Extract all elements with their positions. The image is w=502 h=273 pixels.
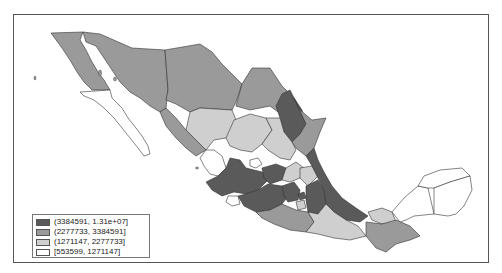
state-campeche: [392, 186, 434, 222]
legend-item: [553599, 1271147]: [36, 247, 146, 257]
legend-item: (3384591, 1.31e+07]: [36, 217, 146, 227]
legend-swatch: [36, 239, 50, 246]
state-chihuahua: [165, 44, 242, 112]
legend-label: (2277733, 3384591]: [54, 227, 126, 237]
legend-swatch: [36, 249, 50, 256]
state-colima: [226, 196, 240, 206]
legend-swatch: [36, 219, 50, 226]
state-morelos: [296, 200, 306, 210]
state-aguascalientes: [250, 158, 262, 168]
legend-item: (1271147, 2277733]: [36, 237, 146, 247]
map-legend: (3384591, 1.31e+07] (2277733, 3384591] (…: [32, 214, 150, 258]
legend-label: [553599, 1271147]: [54, 247, 120, 257]
state-chiapas: [366, 220, 420, 252]
island: [34, 76, 36, 80]
state-baja-california-sur: [80, 90, 150, 156]
legend-swatch: [36, 229, 50, 236]
legend-item: (2277733, 3384591]: [36, 227, 146, 237]
legend-label: (1271147, 2277733]: [54, 237, 125, 247]
legend-label: (3384591, 1.31e+07]: [54, 217, 128, 227]
